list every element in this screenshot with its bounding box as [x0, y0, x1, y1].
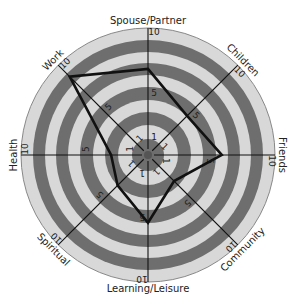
- axis-label: Health: [8, 139, 19, 172]
- tick-label: 1: [139, 168, 145, 178]
- radar-chart: 51015101510151015101510151015101 Spouse/…: [0, 0, 303, 307]
- tick-label: 1: [125, 146, 135, 152]
- tick-label: 10: [148, 27, 160, 37]
- tick-label: 1: [161, 158, 171, 164]
- tick-label: 5: [81, 146, 91, 152]
- center-dot: [144, 151, 152, 159]
- tick-label: 10: [267, 155, 277, 167]
- axis-label: Friends: [277, 137, 288, 173]
- tick-label: 1: [151, 132, 157, 142]
- axis-label: Spouse/Partner: [110, 15, 187, 26]
- tick-label: 10: [20, 143, 30, 155]
- tick-label: 10: [136, 274, 148, 284]
- tick-label: 5: [151, 88, 157, 98]
- axis-label: Learning/Leisure: [107, 283, 190, 294]
